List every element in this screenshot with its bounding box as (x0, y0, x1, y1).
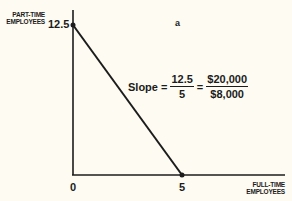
x-axis-label-line1: FULL-TIME (246, 181, 285, 188)
point-y-intercept (71, 23, 76, 28)
x-axis-label: FULL-TIME EMPLOYEES (246, 181, 285, 195)
slope-prefix: Slope = (128, 81, 167, 93)
fraction-1-numerator: 12.5 (170, 73, 193, 87)
x-axis-label-line2: EMPLOYEES (246, 188, 285, 195)
slope-fraction-2: $20,000 $8,000 (206, 73, 248, 100)
y-axis-label-line2: EMPLOYEES (6, 18, 45, 25)
budget-line (73, 25, 182, 175)
point-x-intercept (180, 173, 185, 178)
x-tick-5: 5 (179, 181, 185, 193)
chart-canvas (0, 0, 292, 201)
slope-annotation: Slope = 12.5 5 = $20,000 $8,000 (128, 73, 251, 100)
slope-fraction-1: 12.5 5 (170, 73, 193, 100)
fraction-2-denominator: $8,000 (210, 87, 244, 100)
y-axis-label: PART-TIME EMPLOYEES (6, 11, 45, 25)
fraction-2-numerator: $20,000 (206, 73, 248, 87)
equals-sign: = (197, 81, 203, 93)
y-tick-12-5: 12.5 (48, 18, 69, 30)
x-tick-0: 0 (70, 181, 76, 193)
fraction-1-denominator: 5 (179, 87, 185, 100)
y-axis-label-line1: PART-TIME (6, 11, 45, 18)
panel-label: a (175, 18, 180, 28)
